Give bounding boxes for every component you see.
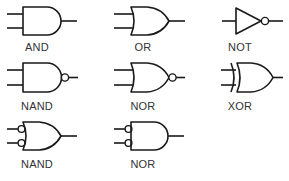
nand-alt-gate-icon	[7, 122, 77, 150]
nor-alt-gate-icon	[114, 122, 184, 150]
gate-label-or: OR	[103, 41, 183, 53]
xor-gate-icon	[221, 63, 283, 92]
and-gate-icon	[7, 7, 77, 35]
or-gate-icon	[114, 7, 185, 35]
gate-label-and: AND	[0, 41, 77, 53]
gate-label-not: NOT	[200, 41, 280, 53]
not-gate-icon	[222, 8, 283, 34]
nor-gate-icon	[114, 63, 185, 92]
logic-gates-diagram	[0, 0, 289, 181]
gate-label-nor-alt: NOR	[103, 158, 183, 170]
gate-label-nand-alt: NAND	[0, 158, 77, 170]
nand-gate-icon	[7, 63, 78, 92]
gate-label-nand: NAND	[0, 100, 77, 112]
gate-label-nor: NOR	[103, 100, 183, 112]
gate-label-xor: XOR	[200, 100, 280, 112]
